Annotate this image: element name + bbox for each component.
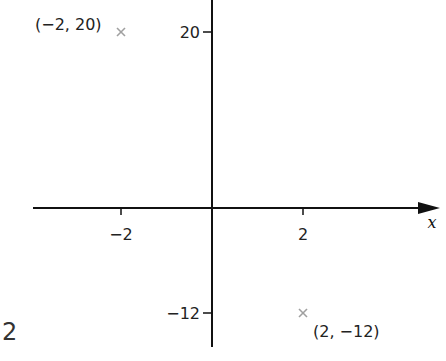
x-tick-label-2: 2 (298, 225, 308, 244)
stray-number-label: 2 (2, 318, 17, 346)
point-marker-neg2-20 (117, 28, 125, 36)
point-marker-2-neg12 (299, 309, 307, 317)
y-tick-label-neg12: −12 (166, 304, 200, 323)
point-label-neg2-20: (−2, 20) (35, 15, 102, 34)
y-tick-label-20: 20 (180, 23, 200, 42)
x-axis-label: x (427, 213, 436, 232)
coordinate-plot: −2 2 x 20 −12 (−2, 20) (2, −12) (0, 0, 446, 361)
x-tick-label-neg2: −2 (109, 225, 133, 244)
point-label-2-neg12: (2, −12) (313, 322, 380, 341)
